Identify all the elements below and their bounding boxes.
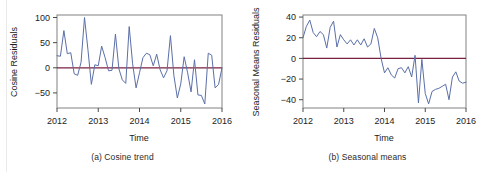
x-tick-label: 2015 (415, 116, 435, 126)
x-tick-label: 2014 (129, 116, 149, 126)
x-tick-label: 2016 (212, 116, 232, 126)
x-tick-label: 2013 (334, 116, 354, 126)
x-tick-label: 2013 (88, 116, 108, 126)
panel-caption-a: (a) Cosine trend (0, 152, 245, 162)
panel-caption-b: (b) Seasonal means (245, 152, 490, 162)
y-tick-label: 20 (286, 33, 296, 43)
y-tick-label: 40 (286, 12, 296, 22)
y-tick-label: 100 (35, 13, 50, 23)
y-tick-label: 50 (40, 38, 50, 48)
x-tick-label: 2012 (293, 116, 313, 126)
y-tick-label: 0 (45, 63, 50, 73)
y-tick-label: 0 (291, 54, 296, 64)
y-axis-label-a: Cosine Residuals (9, 26, 19, 97)
y-axis-b: −40−2002040 (281, 12, 303, 105)
y-tick-label: −20 (281, 74, 296, 84)
x-tick-label: 2014 (374, 116, 394, 126)
x-tick-label: 2015 (171, 116, 191, 126)
plot-frame-a (57, 15, 222, 108)
figure-container: −50050100 20122013201420152016 Cosine Re… (0, 0, 490, 172)
y-axis-label-b: Seasonal Means Residuals (251, 7, 261, 117)
x-axis-label-b: Time (374, 133, 394, 143)
x-tick-label: 2016 (456, 116, 476, 126)
x-axis-a: 20122013201420152016 (47, 108, 232, 126)
x-axis-label-a: Time (129, 133, 149, 143)
x-tick-label: 2012 (47, 116, 67, 126)
y-tick-label: −40 (281, 95, 296, 105)
y-axis-a: −50050100 (35, 13, 57, 98)
y-tick-label: −50 (35, 88, 50, 98)
panel-seasonal-means: −40−2002040 20122013201420152016 Seasona… (245, 0, 490, 172)
chart-seasonal-means: −40−2002040 20122013201420152016 Seasona… (245, 0, 490, 150)
panel-cosine-trend: −50050100 20122013201420152016 Cosine Re… (0, 0, 245, 172)
x-axis-b: 20122013201420152016 (293, 108, 476, 126)
plot-frame-b (303, 15, 466, 108)
chart-cosine-trend: −50050100 20122013201420152016 Cosine Re… (0, 0, 245, 150)
